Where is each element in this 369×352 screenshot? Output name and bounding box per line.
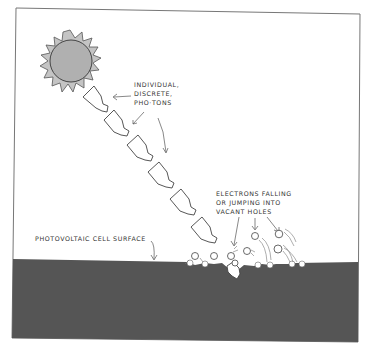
photon-3	[127, 135, 153, 161]
label-surface: PHOTOVOLTAIC CELL SURFACE	[35, 235, 146, 242]
label-electrons-line-3: VACANT HOLES	[216, 208, 272, 215]
photons	[83, 86, 240, 279]
photon-4	[148, 162, 174, 188]
photon-6	[191, 217, 217, 243]
label-photons-line-3: PHO·TONS	[134, 99, 172, 106]
photovoltaic-diagram: INDIVIDUAL, DISCRETE, PHO·TONS ELECTRONS…	[0, 0, 369, 352]
electron-arrows	[231, 217, 279, 246]
label-electrons-line-1: ELECTRONS FALLING	[216, 190, 292, 197]
sun-icon	[40, 30, 101, 92]
photovoltaic-cell-surface	[12, 259, 358, 342]
label-photons-line-1: INDIVIDUAL,	[134, 81, 179, 88]
photon-2	[104, 110, 129, 136]
label-electrons-line-2: OR JUMPING INTO	[216, 199, 281, 207]
photon-5	[170, 189, 196, 215]
surface-arrow	[151, 241, 157, 260]
photon-1	[83, 86, 108, 112]
label-photons-line-2: DISCRETE,	[134, 90, 173, 97]
